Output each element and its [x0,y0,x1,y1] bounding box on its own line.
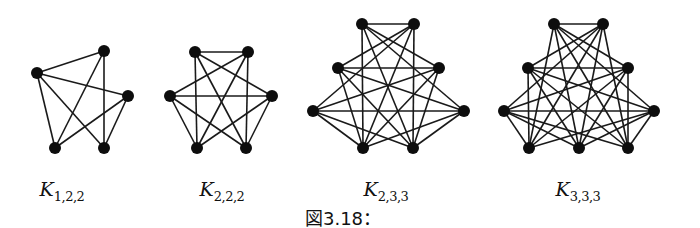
edge [338,68,464,111]
graph-1-2-2 [31,45,134,154]
vertex [332,62,344,74]
vertex [523,142,535,154]
edge [195,52,197,148]
edge [528,68,654,111]
vertex [98,142,110,154]
vertex [433,62,445,74]
graph-label-subscript: 1,2,2 [54,189,85,204]
edge [246,52,248,148]
vertex [458,105,470,117]
graph-2-3-3 [307,18,470,154]
edge [338,24,414,68]
vertex [356,18,368,30]
vertex [122,90,134,102]
edge [313,68,439,111]
vertex [573,142,585,154]
edge [504,68,628,111]
vertex [164,90,176,102]
graph-label: K2,2,2 [200,178,245,204]
vertex [31,67,43,79]
vertex [498,105,510,117]
graph-2-2-2 [164,46,278,154]
edge [362,24,439,68]
edge [528,68,529,148]
edge [413,68,439,148]
vertex [357,142,369,154]
edge [338,68,363,148]
edge [313,111,363,148]
vertex [548,18,560,30]
edge [413,111,464,148]
edge [55,51,104,148]
graph-label: K1,2,2 [40,178,85,204]
graph-label-main: K [364,178,378,200]
graph-label: K3,3,3 [556,178,601,204]
edges [313,24,464,148]
graph-label: K2,3,3 [364,178,409,204]
vertex [240,142,252,154]
graph-label-subscript: 3,3,3 [570,189,601,204]
vertex [307,105,319,117]
vertex [98,45,110,57]
vertex [648,105,660,117]
vertex [242,46,254,58]
graph-label-main: K [556,178,570,200]
graph-label-main: K [40,178,54,200]
graph-label-subscript: 2,3,3 [378,189,409,204]
edge [246,96,272,148]
vertex [189,46,201,58]
vertex [407,142,419,154]
edge [55,96,128,148]
graph-label-subscript: 2,2,2 [214,189,245,204]
graph-label-main: K [200,178,214,200]
figure-caption: 図3.18： [305,204,381,228]
edges [37,51,128,148]
edge [170,96,197,148]
vertex [266,90,278,102]
vertex [408,18,420,30]
edges [504,24,654,148]
vertex [522,62,534,74]
edges [170,52,272,148]
vertex [622,62,634,74]
vertex [191,142,203,154]
vertex [597,18,609,30]
vertex [622,142,634,154]
graph-3-3-3 [498,18,660,154]
vertex [49,142,61,154]
